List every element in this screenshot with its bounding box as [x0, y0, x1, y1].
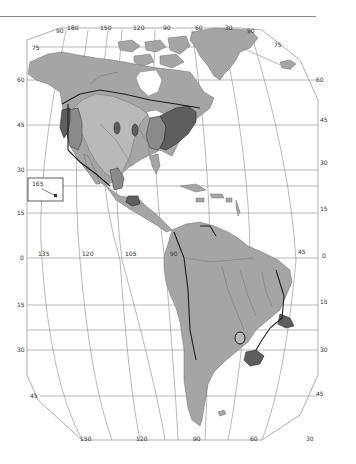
south-america[interactable] [164, 222, 292, 426]
svg-text:135: 135 [38, 250, 50, 257]
svg-text:90: 90 [56, 27, 64, 34]
svg-text:150: 150 [100, 24, 112, 31]
greenland[interactable] [190, 28, 258, 80]
svg-text:15: 15 [17, 209, 25, 216]
svg-text:90: 90 [163, 24, 171, 31]
svg-text:120: 120 [82, 250, 94, 257]
svg-text:60: 60 [316, 76, 324, 83]
zone-dark-southeast-brazil[interactable] [278, 314, 294, 328]
svg-text:150: 150 [80, 435, 92, 442]
svg-text:90: 90 [193, 435, 201, 442]
zone-dark-spot-1[interactable] [114, 122, 120, 134]
svg-text:30: 30 [17, 346, 25, 353]
svg-text:15: 15 [320, 205, 328, 212]
svg-text:45: 45 [17, 121, 25, 128]
svg-text:90: 90 [247, 27, 255, 34]
central-america[interactable] [106, 186, 172, 232]
svg-text:90: 90 [170, 250, 178, 257]
svg-text:45: 45 [316, 390, 324, 397]
svg-text:0: 0 [322, 252, 326, 259]
svg-text:30: 30 [306, 435, 314, 442]
svg-text:30: 30 [225, 24, 233, 31]
inset-label: 165 [32, 180, 44, 187]
caribbean-islands [180, 184, 240, 216]
florida[interactable] [150, 154, 160, 174]
svg-text:0: 0 [20, 254, 24, 261]
hawaii-inset[interactable]: 165 [28, 178, 63, 201]
svg-text:30: 30 [320, 159, 328, 166]
svg-text:45: 45 [30, 392, 38, 399]
svg-text:60: 60 [195, 24, 203, 31]
bottom-labels: 150 120 90 60 30 [80, 435, 314, 442]
zone-dark-spot-2[interactable] [132, 124, 138, 136]
svg-text:75: 75 [32, 44, 40, 51]
svg-text:15: 15 [320, 298, 328, 305]
svg-text:180: 180 [67, 24, 79, 31]
svg-text:120: 120 [136, 435, 148, 442]
zone-light-ring[interactable] [235, 332, 245, 344]
svg-text:30: 30 [320, 346, 328, 353]
svg-text:105: 105 [125, 250, 137, 257]
svg-text:120: 120 [133, 24, 145, 31]
americas-map[interactable]: 165 90 180 150 120 90 60 30 90 75 75 60 … [0, 0, 356, 464]
svg-text:75: 75 [274, 41, 282, 48]
svg-text:15: 15 [17, 301, 25, 308]
hawaii-big-island [54, 194, 57, 197]
svg-text:45: 45 [320, 116, 328, 123]
svg-text:60: 60 [17, 76, 25, 83]
falkland-islands [218, 410, 226, 416]
zone-dark-pampas[interactable] [244, 350, 264, 366]
iceland[interactable] [280, 60, 296, 69]
svg-text:45: 45 [298, 248, 306, 255]
svg-text:30: 30 [17, 166, 25, 173]
left-labels: 60 45 30 15 0 15 30 45 [17, 76, 38, 399]
svg-text:60: 60 [250, 435, 258, 442]
